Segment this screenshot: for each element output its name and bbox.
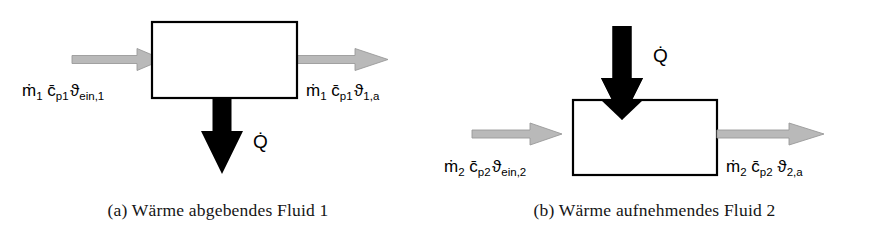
outlet-heat-capacity-sub-b: p2 <box>760 166 773 178</box>
inlet-mass-flow-b: ṁ <box>444 157 458 176</box>
inlet-arrow-a <box>72 49 163 71</box>
control-volume-box-b <box>573 100 717 175</box>
inlet-temperature-sub-b: ein,2 <box>501 166 526 178</box>
diagram-b: ṁ2 c̄p2 ϑein,2 ṁ2 c̄p2 ϑ2,a Q̇ <box>436 0 873 195</box>
inlet-heat-capacity-sub-a: p1 <box>56 90 69 102</box>
outlet-temperature-sub-b: 2,a <box>787 166 804 178</box>
caption-a: (a) Wärme abgebendes Fluid 1 <box>0 200 436 221</box>
inlet-heat-capacity-sub-b: p2 <box>478 166 491 178</box>
outlet-temperature-sub-a: 1,a <box>363 90 380 102</box>
figure-root: ṁ1 c̄p1 ϑein,1 ṁ1 c̄p1 ϑ1,a Q̇ (a) Wär… <box>0 0 873 225</box>
inlet-arrow-b <box>472 123 562 145</box>
outlet-mass-flow-a: ṁ <box>306 81 320 100</box>
caption-b: (b) Wärme aufnehmendes Fluid 2 <box>436 200 873 221</box>
outlet-mass-flow-b: ṁ <box>726 157 740 176</box>
heat-symbol-b: Q̇ <box>653 45 668 66</box>
control-volume-box-a <box>152 22 297 98</box>
panel-b-heat-absorbing-fluid: ṁ2 c̄p2 ϑein,2 ṁ2 c̄p2 ϑ2,a Q̇ (b) Wär… <box>436 0 873 225</box>
diagram-a: ṁ1 c̄p1 ϑein,1 ṁ1 c̄p1 ϑ1,a Q̇ <box>0 0 436 195</box>
outlet-label-b: ṁ2 c̄p2 ϑ2,a <box>726 157 803 178</box>
inlet-label-b: ṁ2 c̄p2 ϑein,2 <box>444 157 526 178</box>
panel-a-heat-releasing-fluid: ṁ1 c̄p1 ϑein,1 ṁ1 c̄p1 ϑ1,a Q̇ (a) Wär… <box>0 0 436 225</box>
heat-symbol-a: Q̇ <box>253 131 268 152</box>
outlet-heat-capacity-sub-a: p1 <box>340 90 353 102</box>
outlet-arrow-b <box>717 123 824 145</box>
inlet-label-a: ṁ1 c̄p1 ϑein,1 <box>22 81 104 102</box>
outlet-label-a: ṁ1 c̄p1 ϑ1,a <box>306 81 380 102</box>
inlet-temperature-sub-a: ein,1 <box>79 90 104 102</box>
outlet-arrow-a <box>297 49 388 71</box>
inlet-mass-flow-a: ṁ <box>22 81 36 100</box>
heat-arrow-b-tip <box>601 26 643 120</box>
